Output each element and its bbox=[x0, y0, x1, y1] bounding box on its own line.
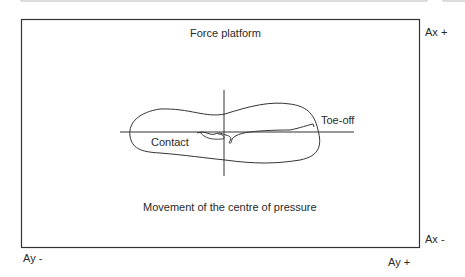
caption-label: Movement of the centre of pressure bbox=[143, 201, 317, 213]
ay-minus-label: Ay - bbox=[23, 252, 42, 264]
top-edge-fragment-left bbox=[21, 0, 427, 1]
foot-outline bbox=[130, 103, 320, 163]
contact-label: Contact bbox=[151, 136, 189, 148]
ay-plus-label: Ay + bbox=[388, 256, 410, 268]
top-edge-fragment-right bbox=[443, 0, 465, 1]
centre-of-pressure-trace bbox=[197, 124, 314, 143]
ax-plus-label: Ax + bbox=[425, 26, 447, 38]
ax-minus-label: Ax - bbox=[425, 233, 445, 245]
toe-off-label: Toe-off bbox=[321, 114, 354, 126]
platform-title: Force platform bbox=[190, 27, 261, 39]
force-platform-diagram bbox=[0, 0, 465, 277]
